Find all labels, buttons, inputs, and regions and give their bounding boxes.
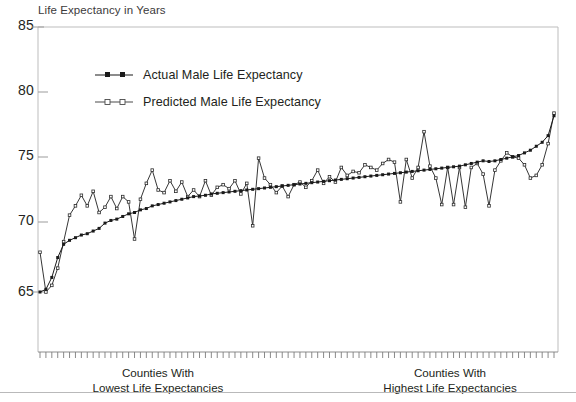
legend-label-predicted: Predicted Male Life Expectancy — [143, 95, 321, 109]
legend-swatch-predicted — [95, 100, 133, 105]
footer-divider — [0, 392, 576, 393]
series-predicted-male-life-expectancy — [39, 112, 556, 293]
x-caption-right: Counties With Highest Life Expectancies — [330, 366, 570, 395]
legend-swatch-actual — [95, 72, 133, 77]
x-axis-ticks — [40, 352, 554, 358]
x-caption-right-line1: Counties With — [330, 366, 570, 381]
x-caption-left-line1: Counties With — [38, 366, 278, 381]
x-caption-left: Counties With Lowest Life Expectancies — [38, 366, 278, 395]
chart-figure: Life Expectancy in Years 85 80 75 70 65 — [0, 0, 576, 402]
plot-area — [0, 0, 576, 402]
legend-label-actual: Actual Male Life Expectancy — [143, 68, 303, 82]
series-actual-male-life-expectancy — [39, 114, 556, 293]
